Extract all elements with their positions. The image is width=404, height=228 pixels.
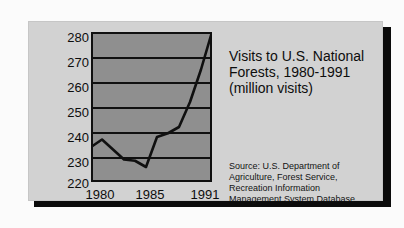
data-series-line — [91, 32, 212, 182]
y-axis-tick-230: 230 — [63, 156, 89, 169]
chart-plot-region: 280 270 260 250 240 230 220 1980 1985 19 — [63, 31, 218, 193]
chart-card: 280 270 260 250 240 230 220 1980 1985 19 — [28, 21, 383, 201]
y-axis-tick-250: 250 — [63, 106, 89, 119]
chart-title: Visits to U.S. National Forests, 1980-19… — [229, 48, 401, 96]
chart-source-note: Source: U.S. Department of Agriculture, … — [229, 161, 404, 205]
chart-source-line-4: Management System Database — [229, 194, 404, 205]
chart-title-line-2: Forests, 1980-1991 — [229, 64, 401, 80]
x-axis-tick-1991: 1991 — [185, 188, 225, 201]
y-axis-tick-270: 270 — [63, 56, 89, 69]
chart-source-line-1: Source: U.S. Department of — [229, 161, 404, 172]
chart-title-line-1: Visits to U.S. National — [229, 48, 401, 64]
y-axis-tick-240: 240 — [63, 131, 89, 144]
y-axis-tick-260: 260 — [63, 81, 89, 94]
x-axis-tick-1980: 1980 — [80, 188, 120, 201]
x-axis-tick-1985: 1985 — [130, 188, 170, 201]
screenshot-root: 280 270 260 250 240 230 220 1980 1985 19 — [0, 0, 404, 228]
chart-title-line-3: (million visits) — [229, 80, 401, 96]
chart-source-line-2: Agriculture, Forest Service, — [229, 172, 404, 183]
chart-source-line-3: Recreation Information — [229, 183, 404, 194]
y-axis-tick-280: 280 — [63, 31, 89, 44]
